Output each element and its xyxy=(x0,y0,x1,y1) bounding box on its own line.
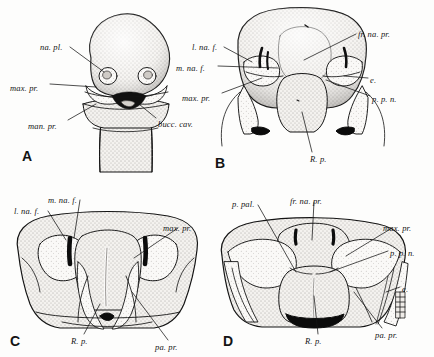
label-fr-na-pr-panel-b: fr. na. pr. xyxy=(358,30,390,39)
label-r-p-panel-d: R. p. xyxy=(305,337,322,346)
label-l-na-f-panel-b: l. na. f. xyxy=(192,43,217,52)
label-max-pr-panel-c: max. pr. xyxy=(163,224,191,233)
label-max-pr-panel-b: max. pr. xyxy=(182,94,210,103)
label-m-na-f-panel-c: m. na. f. xyxy=(48,196,77,205)
label-p-pal-panel-d: p. pal. xyxy=(232,200,255,209)
panel-letter-b: B xyxy=(215,155,226,171)
label-r-p-panel-c: R. p. xyxy=(71,337,88,346)
figure-plate: A B C D na. pl. max. pr. man. pr. bucc. … xyxy=(0,0,434,357)
label-pa-pr-panel-c: pa. pr. xyxy=(155,343,178,352)
panel-letter-a: A xyxy=(22,148,33,164)
label-r-p-panel-b: R. p. xyxy=(310,155,327,164)
label-man-pr-panel-a: man. pr. xyxy=(28,122,57,131)
label-e-panel-d: e. xyxy=(402,285,408,294)
panel-d-drawing xyxy=(221,218,408,328)
label-pa-pr-panel-d: pa. pr. xyxy=(375,331,398,340)
panel-letter-c: C xyxy=(10,333,21,349)
label-e-panel-b: e. xyxy=(370,76,376,85)
panel-a-drawing xyxy=(83,14,170,172)
label-m-na-f-panel-b: m. na. f. xyxy=(176,64,205,73)
panel-letter-d: D xyxy=(223,333,234,349)
label-max-pr-panel-d: max. pr. xyxy=(383,224,411,233)
illustration-artwork xyxy=(0,0,434,357)
label-l-na-f-panel-c: l. na. f. xyxy=(14,207,39,216)
label-p-p-n-panel-d: p. p. n. xyxy=(390,249,415,258)
label-fr-na-pr-panel-d: fr. na. pr. xyxy=(290,197,322,206)
label-max-pr-panel-a: max. pr. xyxy=(10,84,38,93)
label-bucc-cav-panel-a: bucc. cav. xyxy=(158,120,193,129)
label-p-p-n-panel-b: p. p. n. xyxy=(372,95,397,104)
label-na-pl-panel-a: na. pl. xyxy=(40,43,63,52)
